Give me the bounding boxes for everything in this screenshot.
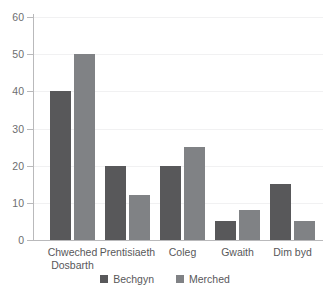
y-axis-tick <box>27 240 34 241</box>
legend-item-merched[interactable]: Merched <box>176 274 230 285</box>
bar[interactable] <box>129 195 150 240</box>
bar[interactable] <box>239 210 260 240</box>
legend-swatch-bechgyn-icon <box>100 275 108 283</box>
bar[interactable] <box>74 54 95 240</box>
bar[interactable] <box>294 221 315 240</box>
y-axis-tick <box>27 54 34 55</box>
legend: Bechgyn Merched <box>0 274 330 285</box>
y-axis-tick <box>27 166 34 167</box>
y-axis-tick <box>27 17 34 18</box>
bar[interactable] <box>160 166 181 240</box>
y-axis-tick <box>27 91 34 92</box>
bar[interactable] <box>270 184 291 240</box>
y-axis-tick-label: 60 <box>0 12 24 23</box>
x-axis-category-label-line: Dosbarth <box>23 259 123 272</box>
bar[interactable] <box>184 147 205 240</box>
y-axis-tick-label: 30 <box>0 124 24 135</box>
y-axis-line <box>33 14 34 241</box>
bar-group <box>270 17 315 240</box>
legend-label-bechgyn: Bechgyn <box>113 274 154 285</box>
bar[interactable] <box>105 166 126 240</box>
bar-group <box>215 17 260 240</box>
y-axis-tick <box>27 129 34 130</box>
x-axis-category-label: Dim byd <box>243 246 330 259</box>
y-axis-tick-label: 40 <box>0 86 24 97</box>
bar[interactable] <box>215 221 236 240</box>
y-axis-tick-label: 50 <box>0 49 24 60</box>
bar-group <box>160 17 205 240</box>
x-axis-category-label-line: Dim byd <box>243 246 330 259</box>
legend-label-merched: Merched <box>189 274 230 285</box>
plot-area <box>33 17 323 240</box>
x-axis-line <box>33 240 323 241</box>
y-axis-tick-label: 0 <box>0 235 24 246</box>
bar[interactable] <box>50 91 71 240</box>
bar-group <box>105 17 150 240</box>
y-axis-tick-label: 10 <box>0 198 24 209</box>
bar-chart: 0102030405060 ChwechedDosbarthPrentisiae… <box>0 0 330 292</box>
legend-item-bechgyn[interactable]: Bechgyn <box>100 274 154 285</box>
y-axis-tick <box>27 203 34 204</box>
y-axis-tick-label: 20 <box>0 161 24 172</box>
legend-swatch-merched-icon <box>176 275 184 283</box>
bar-group <box>50 17 95 240</box>
